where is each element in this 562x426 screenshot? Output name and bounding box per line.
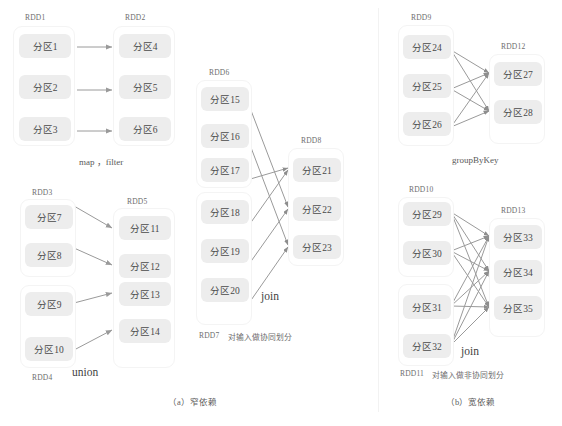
rdd-label-rdd7: RDD7 [199, 331, 219, 340]
op-label-union: union [72, 366, 98, 378]
rdd-group-rdd5: 分区11 分区12 分区13 分区14 [113, 208, 175, 368]
rdd-group-rdd4: 分区9 分区10 [20, 285, 76, 368]
note-rdd11: 对输入做非协同划分 [432, 369, 504, 380]
partition-cell[interactable]: 分区30 [403, 241, 451, 265]
rdd-group-rdd3: 分区7 分区8 [20, 199, 76, 277]
rdd-label-rdd13: RDD13 [501, 206, 525, 215]
edges-union [74, 206, 112, 350]
partition-cell[interactable]: 分区35 [494, 296, 542, 320]
partition-cell[interactable]: 分区17 [201, 158, 249, 182]
edges-groupbykey [451, 50, 489, 127]
partition-cell[interactable]: 分区10 [25, 337, 73, 361]
partition-cell[interactable]: 分区27 [494, 62, 542, 86]
rdd-group-rdd8: 分区21 分区22 分区23 [288, 148, 344, 266]
partition-cell[interactable]: 分区21 [293, 158, 341, 182]
op-label-map-filter: map ，filter [79, 155, 123, 168]
partition-cell[interactable]: 分区31 [403, 295, 451, 319]
rdd-group-rdd2: 分区4 分区5 分区6 [113, 26, 175, 146]
rdd-label-rdd12: RDD12 [501, 42, 525, 51]
rdd-label-rdd10: RDD10 [409, 185, 433, 194]
partition-cell[interactable]: 分区11 [119, 216, 171, 240]
partition-cell[interactable]: 分区18 [201, 200, 249, 224]
partition-cell[interactable]: 分区23 [293, 235, 341, 259]
partition-cell[interactable]: 分区25 [403, 74, 451, 98]
partition-cell[interactable]: 分区1 [19, 34, 71, 58]
partition-cell[interactable]: 分区14 [119, 319, 171, 343]
edges-map-filter [77, 47, 112, 131]
figure-caption-b: （b）宽依赖 [446, 395, 495, 407]
partition-cell[interactable]: 分区29 [403, 202, 451, 226]
figure-canvas: RDD1 分区1 分区2 分区3 RDD2 分区4 分区5 分区6 map ，f… [0, 0, 562, 426]
rdd-group-rdd6: 分区15 分区16 分区17 [196, 80, 252, 188]
edges-join-copartition [247, 100, 288, 306]
rdd-label-rdd2: RDD2 [125, 13, 145, 22]
partition-cell[interactable]: 分区16 [201, 124, 249, 148]
rdd-group-rdd13: 分区33 分区34 分区35 [489, 218, 545, 337]
op-label-join-a: join [261, 290, 279, 302]
rdd-label-rdd8: RDD8 [301, 136, 321, 145]
partition-cell[interactable]: 分区5 [119, 75, 171, 99]
partition-cell[interactable]: 分区12 [119, 254, 171, 278]
edge-layer [0, 0, 562, 426]
rdd-label-rdd5: RDD5 [127, 197, 147, 206]
partition-cell[interactable]: 分区13 [119, 282, 171, 306]
rdd-label-rdd4: RDD4 [32, 373, 52, 382]
rdd-group-rdd10: 分区29 分区30 [398, 197, 454, 277]
rdd-label-rdd6: RDD6 [209, 68, 229, 77]
rdd-label-rdd3: RDD3 [32, 188, 52, 197]
panel-divider [378, 8, 379, 412]
partition-cell[interactable]: 分区28 [494, 100, 542, 124]
rdd-group-rdd12: 分区27 分区28 [489, 54, 545, 144]
partition-cell[interactable]: 分区33 [494, 225, 542, 249]
rdd-group-rdd7: 分区18 分区19 分区20 [196, 192, 252, 325]
partition-cell[interactable]: 分区6 [119, 117, 171, 141]
edges-join-noncopartition [451, 212, 489, 345]
rdd-group-rdd1: 分区1 分区2 分区3 [13, 26, 75, 146]
rdd-label-rdd11: RDD11 [400, 369, 424, 378]
partition-cell[interactable]: 分区3 [19, 117, 71, 141]
partition-cell[interactable]: 分区8 [25, 243, 73, 267]
partition-cell[interactable]: 分区2 [19, 75, 71, 99]
partition-cell[interactable]: 分区20 [201, 278, 249, 302]
partition-cell[interactable]: 分区9 [25, 292, 73, 316]
partition-cell[interactable]: 分区34 [494, 260, 542, 284]
partition-cell[interactable]: 分区19 [201, 239, 249, 263]
partition-cell[interactable]: 分区26 [403, 112, 451, 136]
rdd-label-rdd1: RDD1 [25, 13, 45, 22]
partition-cell[interactable]: 分区7 [25, 205, 73, 229]
figure-caption-a: （a）窄依赖 [168, 395, 217, 407]
partition-cell[interactable]: 分区22 [293, 197, 341, 221]
rdd-group-rdd9: 分区24 分区25 分区26 [398, 25, 454, 146]
partition-cell[interactable]: 分区4 [119, 34, 171, 58]
partition-cell[interactable]: 分区24 [403, 35, 451, 59]
op-label-join-b: join [461, 345, 479, 357]
rdd-group-rdd11: 分区31 分区32 [398, 284, 454, 366]
op-label-groupbykey: groupByKey [452, 155, 499, 165]
partition-cell[interactable]: 分区15 [201, 87, 249, 111]
rdd-label-rdd9: RDD9 [411, 13, 431, 22]
partition-cell[interactable]: 分区32 [403, 334, 451, 358]
note-rdd7: 对输入做协同划分 [228, 331, 292, 342]
